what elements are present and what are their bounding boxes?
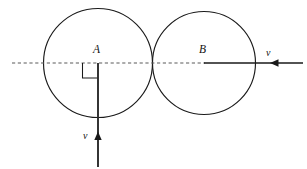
label-velocity-vertical: v xyxy=(83,131,87,141)
label-center-a: A xyxy=(93,44,100,56)
label-center-b: B xyxy=(199,44,206,56)
label-velocity-horizontal: v xyxy=(266,48,270,58)
diagram-canvas xyxy=(0,0,307,169)
horizontal-velocity-arrowhead xyxy=(270,59,279,66)
right-angle-marker-icon xyxy=(83,63,99,78)
vertical-velocity-arrowhead xyxy=(94,132,101,141)
physics-diagram-figure: A B v v xyxy=(0,0,307,169)
